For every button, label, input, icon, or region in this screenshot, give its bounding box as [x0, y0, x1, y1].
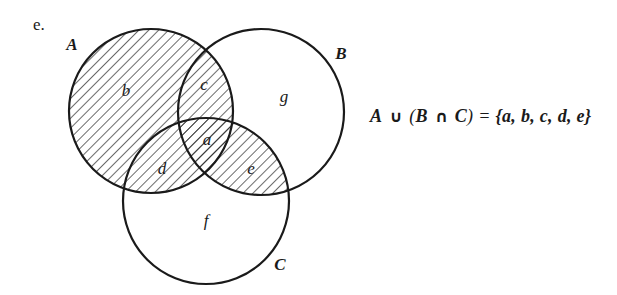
region-label-g: g: [280, 87, 289, 106]
set-label-b: B: [334, 44, 346, 63]
union-symbol: ∪: [387, 107, 404, 126]
intersection-symbol: ∩: [433, 107, 450, 126]
region-label-e: e: [247, 159, 255, 178]
formula-equals: =: [473, 106, 495, 126]
region-label-c: c: [200, 75, 208, 94]
venn-diagram: e. A B C a b c d e f g: [0, 0, 617, 295]
formula-set-b: B: [416, 106, 428, 126]
region-label-a: a: [203, 130, 212, 149]
shaded-region-union: [69, 29, 289, 284]
region-label-b: b: [122, 81, 131, 100]
formula-set-c: C: [455, 106, 467, 126]
set-formula: A ∪ (B ∩ C) = {a, b, c, d, e}: [370, 106, 591, 127]
set-label-c: C: [274, 255, 286, 274]
formula-result-set: {a, b, c, d, e}: [495, 106, 591, 126]
formula-set-a: A: [370, 106, 382, 126]
region-label-f: f: [204, 211, 211, 230]
set-label-a: A: [65, 35, 77, 54]
part-label: e.: [33, 15, 45, 34]
region-label-d: d: [158, 159, 167, 178]
